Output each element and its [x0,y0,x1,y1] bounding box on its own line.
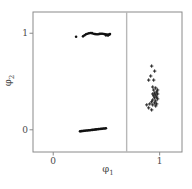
y-axis-title: φ2 [2,68,15,94]
plot-area-frame [33,12,182,152]
scatter-points [75,32,160,133]
scatter-point-plus [152,78,155,81]
scatter-point-plus [151,103,154,106]
scatter-point-plus [147,106,150,109]
scatter-point-plus [148,102,151,105]
scatter-point-plus [149,74,152,77]
y-axis-tick-label-1: 1 [14,27,28,39]
scatter-point-plus [154,86,157,89]
x-axis-tick-label-0: 0 [45,155,61,167]
x-axis-title-subscript: 1 [109,169,113,177]
scatter-point-dot [105,127,108,130]
scatter-point-plus [147,78,150,81]
scatter-point-plus [145,103,148,106]
y-axis-title-subscript: 2 [8,75,16,79]
y-axis-tick-label-0: 0 [14,124,28,136]
scatter-point-plus [150,108,153,111]
scatter-point-plus [150,64,153,67]
scatter-point-plus [153,69,156,72]
x-axis-tick-label-1: 1 [152,155,168,167]
y-axis-title-symbol: φ [2,79,13,86]
axis-tick-marks [30,33,160,155]
scatter-point-plus [152,88,155,91]
scatter-point-dot [107,34,110,37]
scatter-point-plus [151,85,154,88]
scatter-point-dot [75,35,78,38]
scatter-plot-figure: 1 0 0 1 φ1 φ2 [0,0,192,189]
x-axis-title: φ1 [92,163,124,177]
